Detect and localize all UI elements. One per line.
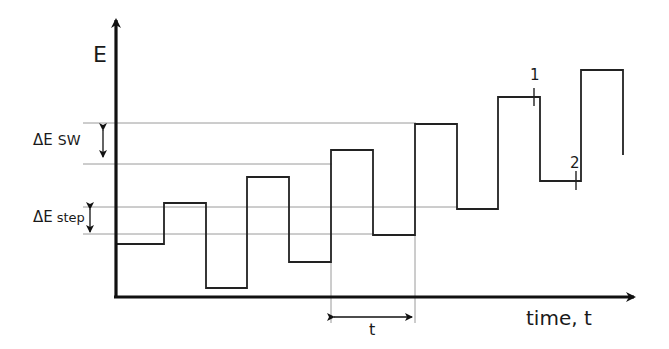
delta-e-sw-symbol: ΔE [33, 131, 53, 149]
x-axis-label: time, t [526, 306, 592, 330]
delta-e-sw-subscript: SW [58, 132, 81, 148]
marker-1-label: 1 [530, 66, 540, 84]
square-wave-staircase [116, 70, 623, 288]
delta-e-step-subscript: step [57, 210, 85, 225]
delta-e-step-label: ΔEstep [33, 208, 85, 226]
y-axis-label: E [93, 42, 107, 67]
guide-lines [83, 123, 458, 234]
delta-e-sw-label: ΔESW [33, 131, 80, 149]
delta-e-step-symbol: ΔE [33, 208, 53, 226]
period-label: t [369, 320, 375, 339]
period-guides [331, 235, 415, 323]
marker-2-label: 2 [570, 154, 580, 172]
